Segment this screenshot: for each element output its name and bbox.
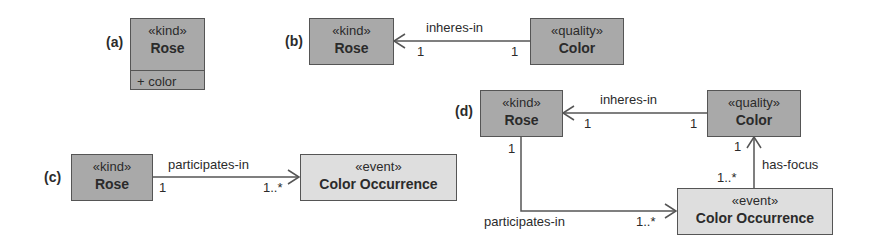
class-name: Rose <box>310 39 393 57</box>
class-name: Rose <box>72 175 152 193</box>
class-color-occurrence-d[interactable]: «event» Color Occurrence <box>677 188 833 235</box>
class-rose-c[interactable]: «kind» Rose <box>71 154 153 201</box>
participates-in-line-d <box>521 136 676 211</box>
class-color-d[interactable]: «quality» Color <box>707 90 801 137</box>
stereotype: «event» <box>678 193 832 209</box>
stereotype: «event» <box>301 159 456 175</box>
multiplicity-event-focus: 1..* <box>717 170 737 185</box>
class-header: «kind» Rose <box>131 23 204 71</box>
multiplicity-color: 1 <box>690 116 697 131</box>
stereotype: «quality» <box>708 95 800 111</box>
relation-name-inheres-in: inheres-in <box>426 20 483 35</box>
relation-name-inheres-in: inheres-in <box>600 92 657 107</box>
class-color-occurrence-c[interactable]: «event» Color Occurrence <box>300 154 457 201</box>
multiplicity-rose-participates: 1 <box>508 141 515 156</box>
multiplicity-event-participates: 1..* <box>636 214 656 229</box>
multiplicity-event: 1..* <box>263 180 283 195</box>
class-name: Color <box>708 111 800 129</box>
class-rose-with-attribute[interactable]: «kind» Rose + color <box>130 18 205 90</box>
class-name: Rose <box>131 39 204 57</box>
multiplicity-color: 1 <box>511 44 518 59</box>
class-name: Color <box>531 39 623 57</box>
multiplicity-color-focus: 1 <box>734 139 741 154</box>
class-color-b[interactable]: «quality» Color <box>530 18 624 65</box>
class-rose-d[interactable]: «kind» Rose <box>480 90 563 137</box>
class-name: Color Occurrence <box>678 209 832 227</box>
panel-label-d: (d) <box>455 103 473 119</box>
panel-label-b: (b) <box>285 33 303 49</box>
attribute-color: + color <box>131 71 204 89</box>
stereotype: «kind» <box>72 159 152 175</box>
class-rose-b[interactable]: «kind» Rose <box>309 18 394 65</box>
panel-label-c: (c) <box>44 169 61 185</box>
stereotype: «quality» <box>531 23 623 39</box>
relation-name-participates-in: participates-in <box>168 157 249 172</box>
relation-name-participates-in: participates-in <box>484 214 565 229</box>
stereotype: «kind» <box>310 23 393 39</box>
class-name: Rose <box>481 111 562 129</box>
multiplicity-rose: 1 <box>584 116 591 131</box>
panel-label-a: (a) <box>106 34 123 50</box>
class-name: Color Occurrence <box>301 175 456 193</box>
multiplicity-rose: 1 <box>417 44 424 59</box>
stereotype: «kind» <box>131 23 204 39</box>
stereotype: «kind» <box>481 95 562 111</box>
multiplicity-rose: 1 <box>159 180 166 195</box>
relation-name-has-focus: has-focus <box>762 157 818 172</box>
